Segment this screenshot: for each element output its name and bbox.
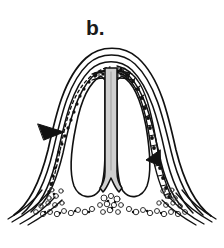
arrow-left xyxy=(38,124,64,140)
left-cavity xyxy=(71,76,105,197)
figure-panel: b. xyxy=(0,0,224,248)
arrow-right xyxy=(146,150,160,166)
histological-cross-section-illustration xyxy=(0,0,224,248)
